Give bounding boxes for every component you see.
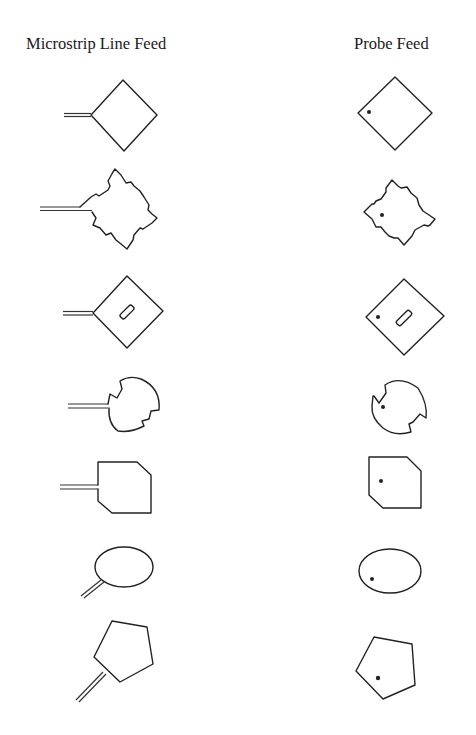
row-3-left-slotted-patch-line-feed bbox=[63, 276, 163, 348]
row-5-left-truncated-patch-line-feed bbox=[60, 462, 151, 513]
row-2-right-notched-patch-probe-feed bbox=[364, 180, 435, 245]
row-5-right-truncated-patch-probe-feed bbox=[369, 457, 421, 508]
row-7-right-pentagonal-patch-probe-feed bbox=[356, 637, 415, 699]
row-6-left-elliptical-patch-line-feed bbox=[81, 547, 153, 598]
row-1-right-square-patch-probe-feed bbox=[358, 77, 432, 150]
row-1-left-square-patch-line-feed bbox=[64, 80, 157, 151]
row-7-left-pentagonal-patch-line-feed bbox=[76, 621, 153, 702]
row-4-left-notched-circular-patch-line-feed bbox=[68, 377, 159, 431]
row-6-right-elliptical-patch-probe-feed bbox=[359, 549, 421, 593]
row-2-left-notched-patch-line-feed bbox=[40, 169, 157, 249]
antenna-figure bbox=[0, 0, 476, 735]
row-4-right-notched-circular-patch-probe-feed bbox=[372, 381, 426, 434]
row-3-right-slotted-patch-probe-feed bbox=[366, 279, 444, 355]
